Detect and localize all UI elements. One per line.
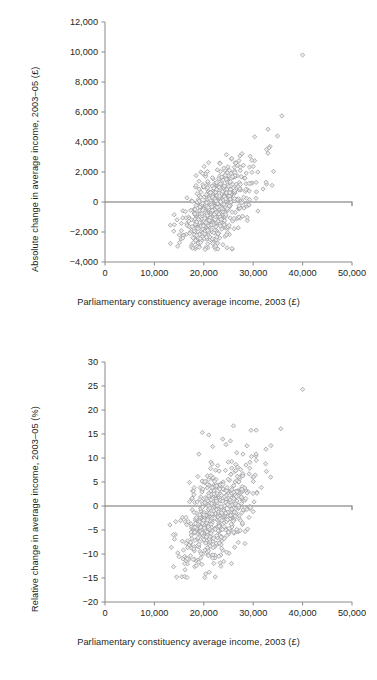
- data-point: [187, 500, 191, 504]
- data-point: [169, 545, 173, 549]
- data-point: [224, 442, 228, 446]
- data-point: [181, 216, 185, 220]
- data-point: [174, 520, 178, 524]
- data-point-group: [168, 387, 305, 579]
- data-point: [264, 469, 268, 473]
- y-tick-label: 0: [93, 197, 98, 207]
- y-tick-label: 25: [88, 381, 98, 391]
- y-tick-label: −2,000: [70, 227, 98, 237]
- data-point: [236, 226, 240, 230]
- x-tick-label: 40,000: [289, 268, 317, 278]
- x-tick-label: 30,000: [239, 608, 267, 618]
- data-point: [259, 485, 263, 489]
- data-point: [238, 168, 242, 172]
- data-point: [221, 243, 225, 247]
- scatter-plot-bottom: −20−15−10−5051015202530010,00020,00030,0…: [0, 340, 377, 640]
- data-point: [254, 458, 258, 462]
- data-point: [185, 196, 189, 200]
- y-tick-label: 5: [93, 477, 98, 487]
- data-point: [168, 523, 172, 527]
- data-point: [264, 447, 268, 451]
- x-tick-label: 40,000: [289, 608, 317, 618]
- data-point: [251, 491, 255, 495]
- data-point: [197, 452, 201, 456]
- data-point: [232, 545, 236, 549]
- data-point: [247, 515, 251, 519]
- plot-area-top: −4,000−2,00002,0004,0006,0008,00010,0001…: [0, 0, 377, 300]
- data-point: [196, 474, 200, 478]
- y-tick-label: −20: [82, 597, 98, 607]
- x-tick-label: 0: [102, 268, 107, 278]
- data-point: [254, 196, 258, 200]
- data-point: [254, 428, 258, 432]
- data-point: [263, 462, 267, 466]
- data-point: [183, 568, 187, 572]
- data-point: [179, 229, 183, 233]
- data-point: [180, 539, 184, 543]
- data-point: [251, 479, 255, 483]
- data-point: [175, 218, 179, 222]
- data-point: [232, 227, 236, 231]
- data-point: [245, 444, 249, 448]
- x-tick-label: 30,000: [239, 268, 267, 278]
- data-point: [172, 213, 176, 217]
- data-point: [249, 454, 253, 458]
- y-tick-label: 10,000: [70, 47, 98, 57]
- data-point: [247, 472, 251, 476]
- data-point: [241, 452, 245, 456]
- data-point: [256, 209, 260, 213]
- data-point: [235, 451, 239, 455]
- data-point: [181, 548, 185, 552]
- y-tick-label: 6,000: [75, 107, 98, 117]
- data-point: [270, 183, 274, 187]
- y-tick-label: −5: [88, 525, 98, 535]
- data-point: [266, 127, 270, 131]
- y-tick-label: 30: [88, 357, 98, 367]
- data-point: [256, 170, 260, 174]
- data-point: [213, 575, 217, 579]
- data-point: [247, 165, 251, 169]
- data-point: [172, 537, 176, 541]
- data-point: [207, 433, 211, 437]
- data-point: [254, 190, 258, 194]
- data-point: [252, 500, 256, 504]
- y-tick-label: 12,000: [70, 17, 98, 27]
- y-tick-label: −10: [82, 549, 98, 559]
- y-tick-label: 8,000: [75, 77, 98, 87]
- data-point: [236, 540, 240, 544]
- data-point: [221, 437, 225, 441]
- y-tick-label: −4,000: [70, 257, 98, 267]
- data-point: [203, 575, 207, 579]
- data-point: [248, 466, 252, 470]
- x-tick-label: 0: [102, 608, 107, 618]
- data-point: [300, 387, 304, 391]
- data-point: [208, 466, 212, 470]
- data-point: [202, 164, 206, 168]
- data-point: [184, 515, 188, 519]
- data-point: [213, 468, 217, 472]
- data-point: [244, 463, 248, 467]
- data-point: [261, 187, 265, 191]
- data-point: [254, 180, 258, 184]
- x-tick-label: 50,000: [338, 268, 366, 278]
- data-point: [230, 466, 234, 470]
- data-point-group: [168, 53, 305, 252]
- data-point: [216, 463, 220, 467]
- data-point: [231, 424, 235, 428]
- x-tick-label: 10,000: [140, 608, 168, 618]
- data-point: [300, 53, 304, 57]
- scatter-figure: Absolute change in average income, 2003–…: [0, 0, 377, 680]
- data-point: [168, 223, 172, 227]
- data-point: [228, 439, 232, 443]
- scatter-plot-top: −4,000−2,00002,0004,0006,0008,00010,0001…: [0, 0, 377, 300]
- data-point: [206, 161, 210, 165]
- y-tick-label: −15: [82, 573, 98, 583]
- data-point: [172, 229, 176, 233]
- data-point: [225, 246, 229, 250]
- data-point: [249, 428, 253, 432]
- x-tick-label: 10,000: [140, 268, 168, 278]
- data-point: [251, 509, 255, 513]
- data-point: [269, 475, 273, 479]
- x-tick-label: 20,000: [190, 608, 218, 618]
- data-point: [171, 565, 175, 569]
